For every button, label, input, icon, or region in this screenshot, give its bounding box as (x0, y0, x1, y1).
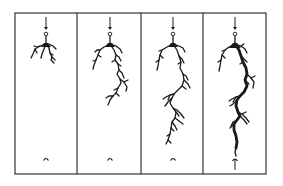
needle-electrode-icon (171, 17, 175, 36)
panel-stage-4 (218, 17, 255, 170)
panels (31, 17, 255, 170)
electrical-tree (218, 36, 255, 156)
ground-electrode-icon (233, 159, 238, 170)
ground-electrode-icon (171, 159, 176, 161)
panel-dividers (77, 13, 203, 174)
needle-electrode-icon (44, 17, 48, 36)
electrical-tree (156, 36, 190, 144)
panel-stage-3 (156, 17, 190, 161)
needle-electrode-icon (108, 17, 112, 36)
diagram-canvas (0, 0, 283, 186)
tree-root-blob (105, 43, 115, 47)
needle-electrode-icon (233, 17, 237, 36)
electrical-tree (31, 36, 56, 63)
panel-stage-1 (31, 17, 56, 161)
treeing-diagram (0, 0, 283, 186)
ground-electrode-icon (44, 159, 49, 161)
tree-root-blob (168, 43, 178, 47)
panel-stage-2 (93, 17, 128, 161)
ground-electrode-icon (108, 159, 113, 161)
